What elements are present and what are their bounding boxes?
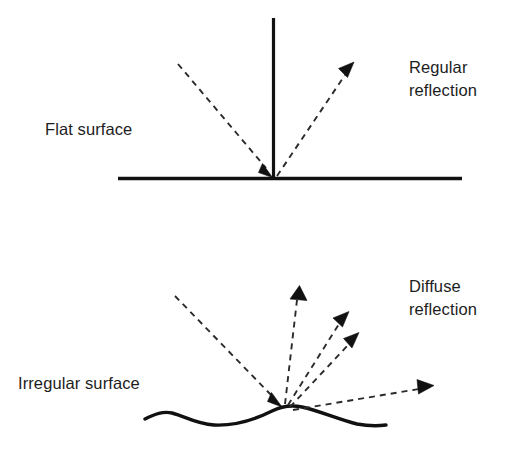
flat-surface-label: Flat surface xyxy=(45,120,132,138)
incident-ray-arrowhead xyxy=(259,164,273,178)
regular-reflection-label-line1: Regular xyxy=(409,58,468,76)
diffuse-reflection-panel xyxy=(145,286,434,426)
reflection-diagram: Flat surface Regular reflection Irregul xyxy=(0,0,525,459)
irregular-surface-label: Irregular surface xyxy=(18,374,140,392)
diffuse-incident-ray xyxy=(175,296,274,398)
scattered-ray-4-arrowhead xyxy=(417,380,434,395)
scattered-ray-2 xyxy=(288,324,339,405)
incident-ray xyxy=(178,64,266,168)
scattered-ray-3-arrowhead xyxy=(344,333,360,349)
diffuse-reflection-label-line1: Diffuse xyxy=(409,277,461,295)
scattered-ray-4 xyxy=(293,389,419,410)
regular-reflection-panel xyxy=(118,18,462,180)
scattered-ray-2-arrowhead xyxy=(333,312,349,328)
reflected-ray xyxy=(277,75,345,176)
diffuse-reflection-label-line2: reflection xyxy=(409,300,477,318)
irregular-surface-line xyxy=(145,406,386,426)
reflected-ray-arrowhead xyxy=(339,62,355,78)
scattered-ray-1-arrowhead xyxy=(290,286,307,301)
regular-reflection-label-line2: reflection xyxy=(409,81,477,99)
scattered-ray-1 xyxy=(285,300,297,404)
diagram-canvas: Flat surface Regular reflection Irregul xyxy=(0,0,525,459)
